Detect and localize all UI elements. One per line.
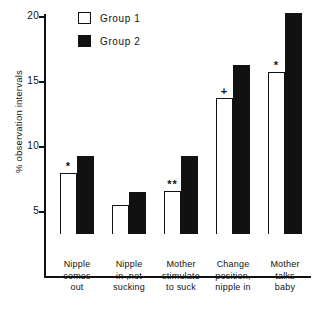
bar-group2-nipple-comes-out xyxy=(77,156,94,234)
bar-group1-nipple-comes-out: * xyxy=(60,173,77,234)
y-tick-5 xyxy=(39,211,44,213)
x-label-mother-stimulate-to-suck: Mother stimulate to suck xyxy=(152,259,210,294)
y-axis-title: % observation intervals xyxy=(13,57,24,187)
bar-groups: * Nipple comes out Nipple in ,not suckin… xyxy=(46,0,310,277)
y-tick-label-5: 5 xyxy=(13,205,39,216)
x-label-nipple-in-not-sucking: Nipple in ,not sucking xyxy=(100,259,158,294)
bar-group2-mother-talks-baby xyxy=(285,13,302,234)
y-tick-15 xyxy=(39,81,44,83)
bar-group-nipple-in-not-sucking: Nipple in ,not sucking xyxy=(106,0,152,234)
bar-group2-nipple-in-not-sucking xyxy=(129,192,146,234)
bar-group2-change-position-nipple-in xyxy=(233,65,250,234)
x-label-nipple-comes-out: Nipple comes out xyxy=(48,259,106,294)
bar-chart: 20 15 10 5 % observation intervals Group… xyxy=(0,0,314,319)
bar-group-nipple-comes-out: * Nipple comes out xyxy=(54,0,100,234)
significance-marker: + xyxy=(221,86,228,96)
x-label-mother-talks-baby: Mother talks baby xyxy=(256,259,314,294)
bar-group1-mother-talks-baby: * xyxy=(268,72,285,235)
significance-marker: ** xyxy=(167,179,178,189)
bar-group-change-position-nipple-in: + Change position, nipple in xyxy=(210,0,256,234)
bar-group-mother-talks-baby: * Mother talks baby xyxy=(262,0,308,234)
bar-group-mother-stimulate-to-suck: ** Mother stimulate to suck xyxy=(158,0,204,234)
bar-group2-mother-stimulate-to-suck xyxy=(181,156,198,234)
x-label-change-position-nipple-in: Change position, nipple in xyxy=(204,259,262,294)
bar-group1-nipple-in-not-sucking xyxy=(112,205,129,234)
significance-marker: * xyxy=(66,161,71,171)
bar-group1-change-position-nipple-in: + xyxy=(216,98,233,235)
significance-marker: * xyxy=(274,60,279,70)
bar-group1-mother-stimulate-to-suck: ** xyxy=(164,191,181,234)
y-tick-10 xyxy=(39,146,44,148)
y-tick-20 xyxy=(39,16,44,18)
y-tick-label-20: 20 xyxy=(13,10,39,21)
